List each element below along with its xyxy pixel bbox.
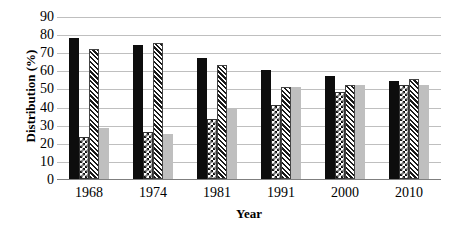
- bar: [389, 81, 399, 179]
- y-tick-label: 50: [28, 82, 54, 96]
- y-tick-label: 60: [28, 64, 54, 78]
- bar-group: [121, 17, 185, 179]
- y-tick-label: 0: [28, 173, 54, 187]
- bar: [133, 45, 143, 179]
- y-axis-tick-labels: 0102030405060708090: [28, 0, 54, 231]
- x-tick-label: 2000: [313, 184, 377, 202]
- bar: [271, 105, 281, 179]
- bar: [325, 76, 335, 179]
- y-tick-label: 30: [28, 119, 54, 133]
- bar: [409, 79, 419, 179]
- bar-group: [377, 17, 441, 179]
- x-tick-label: 1981: [185, 184, 249, 202]
- x-tick-label: 2010: [377, 184, 441, 202]
- bar: [281, 87, 291, 179]
- bar-group: [57, 17, 121, 179]
- bar: [69, 38, 79, 179]
- bar: [335, 92, 345, 179]
- bar: [217, 65, 227, 179]
- bar: [355, 85, 365, 179]
- x-axis-tick-labels: 196819741981199120002010: [57, 184, 441, 206]
- x-tick-label: 1991: [249, 184, 313, 202]
- bar: [261, 70, 271, 179]
- bar-chart: Distribution (%) 0102030405060708090 196…: [0, 0, 450, 231]
- y-tick-label: 20: [28, 137, 54, 151]
- bar: [143, 132, 153, 179]
- bar-group: [185, 17, 249, 179]
- bar: [207, 119, 217, 179]
- bar: [291, 87, 301, 179]
- x-axis-title: Year: [57, 206, 441, 222]
- plot-area: [57, 17, 441, 180]
- y-tick-label: 80: [28, 28, 54, 42]
- bar: [419, 85, 429, 179]
- y-tick-label: 40: [28, 101, 54, 115]
- bar: [227, 108, 237, 179]
- bar: [99, 128, 109, 179]
- bar: [163, 134, 173, 179]
- bar-group: [313, 17, 377, 179]
- bar-group: [249, 17, 313, 179]
- y-tick-label: 70: [28, 46, 54, 60]
- bar: [79, 137, 89, 179]
- y-tick-label: 90: [28, 10, 54, 24]
- bar: [153, 43, 163, 179]
- bar: [345, 85, 355, 179]
- bar: [399, 85, 409, 179]
- x-tick-label: 1968: [57, 184, 121, 202]
- bar: [197, 58, 207, 179]
- x-axis-line: [57, 179, 441, 180]
- bar: [89, 49, 99, 179]
- x-tick-label: 1974: [121, 184, 185, 202]
- y-tick-label: 10: [28, 155, 54, 169]
